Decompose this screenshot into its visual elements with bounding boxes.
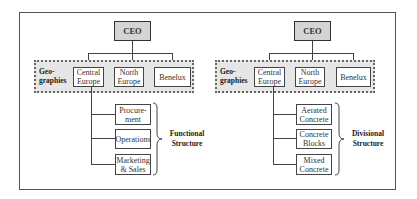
sub-trunk — [273, 87, 274, 164]
functional-structure-panel: Geo- graphies CEO CentralEurope NorthEur… — [0, 0, 210, 199]
unit-aerated-concrete: AeratedConcrete — [296, 104, 332, 125]
structure-label: Divisional Structure — [347, 129, 389, 149]
divisional-structure-panel: Geo- graphies CEO CentralEurope NorthEur… — [181, 0, 401, 199]
geo-central-europe: CentralEurope — [254, 67, 285, 87]
unit-marketing-sales: Marketing& Sales — [115, 154, 151, 175]
geo-bus — [269, 53, 353, 54]
ceo-stem — [312, 40, 313, 54]
curly-brace-icon — [152, 102, 164, 176]
sub-branch-1 — [91, 114, 115, 115]
sub-branch-1 — [273, 114, 296, 115]
ceo-box: CEO — [294, 21, 331, 41]
unit-mixed-concrete: MixedConcrete — [296, 154, 332, 175]
unit-operations: Operations — [115, 129, 151, 149]
sub-trunk — [91, 87, 92, 164]
geo-benelux: Benelux — [336, 67, 371, 87]
sub-branch-3 — [91, 164, 115, 165]
sub-branch-2 — [273, 138, 296, 139]
geographies-label: Geo- graphies — [39, 67, 67, 85]
geo-bus — [88, 53, 172, 54]
geo-north-europe: NorthEurope — [114, 67, 144, 87]
sub-branch-2 — [91, 138, 115, 139]
ceo-stem — [132, 40, 133, 54]
sub-branch-3 — [273, 164, 296, 165]
geographies-label: Geo- graphies — [220, 67, 248, 85]
curly-brace-icon — [334, 102, 346, 176]
ceo-box: CEO — [114, 21, 151, 41]
unit-procurement: Procure-ment — [115, 104, 151, 125]
geo-central-europe: CentralEurope — [73, 67, 104, 87]
geo-north-europe: NorthEurope — [295, 67, 325, 87]
unit-concrete-blocks: ConcreteBlocks — [296, 129, 332, 149]
